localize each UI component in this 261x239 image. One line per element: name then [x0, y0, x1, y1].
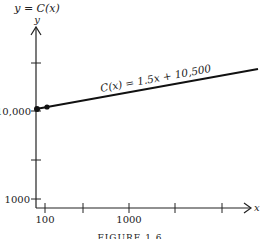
y-tick-label-1000: 1000 — [5, 194, 30, 205]
point-x0 — [34, 106, 40, 112]
point-x100 — [44, 104, 49, 109]
x-tick-label-100: 100 — [35, 214, 54, 225]
y-tick-label-10000: 10,000 — [0, 106, 31, 117]
x-tick-label-1000: 1000 — [116, 214, 141, 225]
chart: y = C(x) y x 10,000 1000 100 1000 C(x) =… — [0, 0, 261, 239]
x-axis-label: x — [254, 202, 260, 213]
y-axis-label: y — [33, 14, 40, 25]
line-label: C(x) = 1.5x + 10,500 — [99, 62, 212, 94]
figure-caption: FIGURE 1.6 — [97, 233, 162, 239]
